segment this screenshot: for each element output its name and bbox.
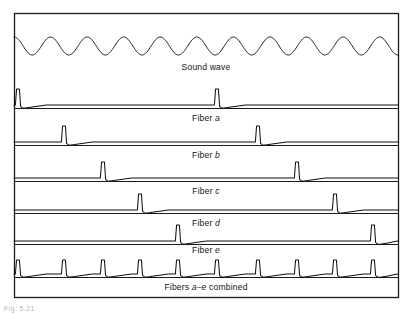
label-fiber-d: Fiber d [192, 218, 220, 228]
volley-principle-figure: Sound waveFiber aFiber bFiber cFiber dFi… [0, 0, 412, 314]
row-label-group: Sound waveFiber aFiber bFiber cFiber dFi… [164, 62, 247, 292]
trace-fiber-c [14, 162, 398, 181]
trace-fibers-combined [14, 260, 398, 277]
label-fiber-e: Fiber e [192, 245, 220, 255]
label-fibers-combined: Fibers a–e combined [164, 282, 247, 292]
label-fiber-a: Fiber a [192, 113, 220, 123]
trace-fiber-d [14, 194, 398, 213]
trace-fiber-b [14, 126, 398, 145]
label-fiber-c: Fiber c [192, 186, 220, 196]
figure-container: Sound waveFiber aFiber bFiber cFiber dFi… [0, 0, 412, 314]
trace-sound-wave [14, 37, 398, 55]
label-sound-wave: Sound wave [182, 62, 231, 72]
figure-caption-stub: Fig. 5.21 [4, 305, 35, 313]
trace-fiber-a [14, 89, 398, 108]
label-fiber-b: Fiber b [192, 150, 220, 160]
